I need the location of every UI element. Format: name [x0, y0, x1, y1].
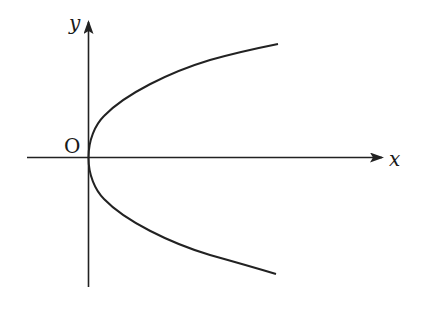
parabola-upper-branch — [89, 44, 279, 158]
y-axis-label: y — [68, 11, 81, 35]
parabola-diagram: O y x — [0, 0, 425, 310]
x-axis-label: x — [389, 147, 400, 171]
parabola-lower-branch — [89, 158, 277, 275]
origin-label: O — [64, 134, 80, 158]
